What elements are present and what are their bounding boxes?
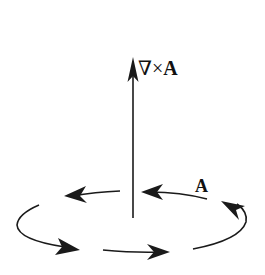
nabla-symbol: ∇ [138,57,152,79]
cross-product-symbol: × [152,57,163,79]
circulation-arrow-left [17,205,80,255]
curl-diagram: ∇×A A [0,0,265,275]
curl-vector-symbol: A [163,57,177,79]
curl-label: ∇×A [138,58,178,78]
circulation-arrow-bottom [103,244,170,260]
curl-vector-arrow [128,57,139,218]
diagram-svg [0,0,265,275]
circulation-arrow-right [193,201,246,249]
vector-field-label: A [195,177,208,195]
arrowhead-upleft-icon [221,201,245,220]
circulation-arrow-top-left [64,186,120,203]
